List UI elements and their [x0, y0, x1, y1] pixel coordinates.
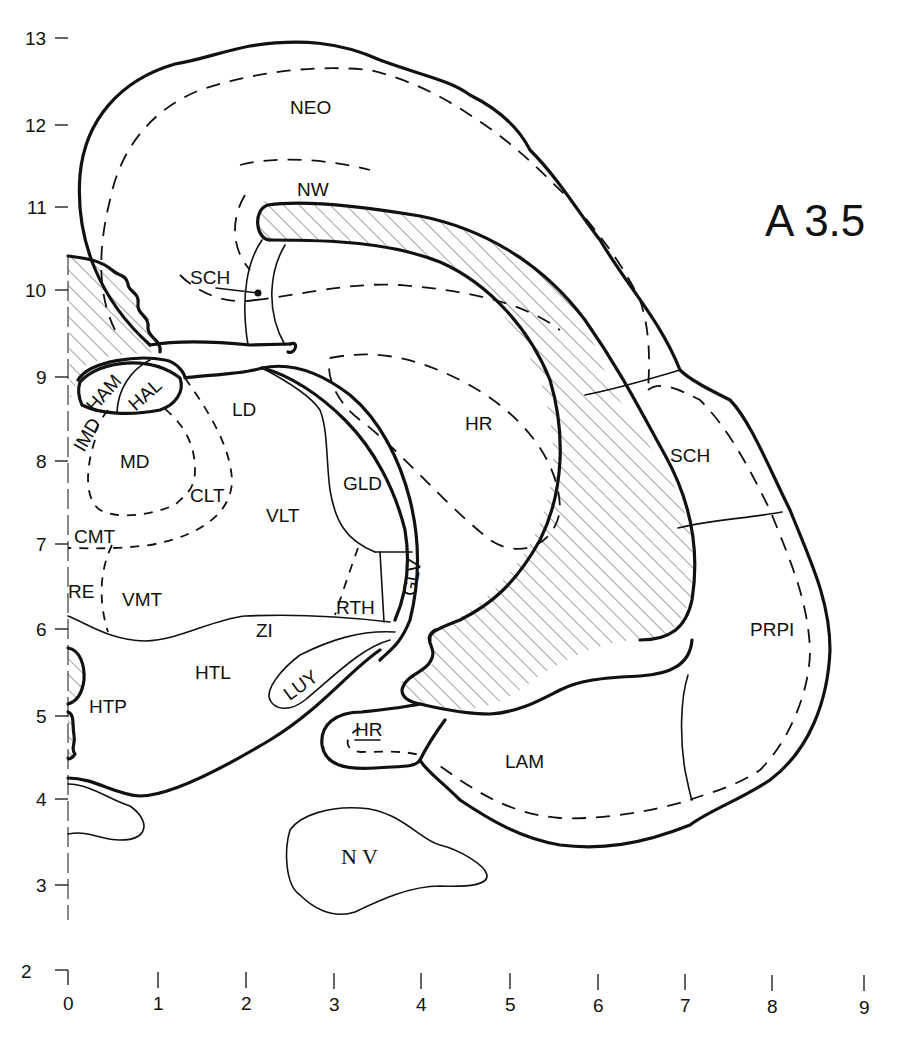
- y-axis: [55, 38, 68, 985]
- y-tick-12: 12: [25, 115, 46, 136]
- y-axis-labels: 13 12 11 10 9 8 7 6 5 4 3 2: [21, 28, 47, 982]
- region-labels: NEO NW SCH HAM HAL IMD MD LD HR CLT GLD …: [68, 97, 794, 869]
- y-tick-8: 8: [36, 451, 47, 472]
- x-tick-6: 6: [593, 995, 604, 1016]
- label-nw: NW: [297, 179, 329, 200]
- y-tick-6: 6: [36, 619, 47, 640]
- label-zi: ZI: [256, 620, 273, 641]
- label-md: MD: [120, 451, 150, 472]
- label-glv: GLV: [398, 557, 425, 597]
- label-hr-lower: HR: [355, 719, 382, 740]
- y-tick-9: 9: [36, 367, 47, 388]
- x-axis-labels: 0 1 2 3 4 5 6 7 8 9: [63, 993, 870, 1018]
- label-nv: N V: [341, 844, 378, 869]
- x-tick-9: 9: [859, 997, 870, 1018]
- x-tick-0: 0: [63, 993, 74, 1014]
- label-sch-right: SCH: [670, 445, 710, 466]
- label-vmt: VMT: [122, 589, 163, 610]
- nv-outline: [287, 808, 487, 915]
- brain-atlas-section: 13 12 11 10 9 8 7 6 5 4 3 2 0 1 2 3 4 5 …: [0, 0, 917, 1050]
- label-vlt: VLT: [266, 505, 300, 526]
- y-tick-10: 10: [25, 280, 46, 301]
- label-ld: LD: [232, 399, 256, 420]
- y-tick-2: 2: [21, 961, 32, 982]
- label-gld: GLD: [343, 473, 382, 494]
- x-tick-4: 4: [416, 994, 427, 1015]
- label-htp: HTP: [89, 696, 127, 717]
- label-clt: CLT: [190, 485, 225, 506]
- y-tick-11: 11: [27, 197, 47, 218]
- y-tick-7: 7: [36, 534, 47, 555]
- y-tick-4: 4: [36, 789, 47, 810]
- label-sch-upper: SCH: [190, 267, 230, 288]
- section-title: A 3.5: [765, 196, 865, 245]
- x-tick-3: 3: [329, 994, 340, 1015]
- y-tick-5: 5: [36, 706, 47, 727]
- cortex-outline: [79, 42, 680, 370]
- x-tick-8: 8: [767, 996, 778, 1017]
- label-re: RE: [68, 581, 94, 602]
- x-tick-1: 1: [153, 993, 164, 1014]
- label-htl: HTL: [195, 662, 231, 683]
- label-hr-main: HR: [465, 413, 492, 434]
- y-tick-13: 13: [25, 28, 46, 49]
- label-imd: IMD: [69, 414, 105, 455]
- label-luy: LUY: [279, 666, 322, 705]
- label-prpi: PRPI: [750, 619, 794, 640]
- label-ham: HAM: [82, 370, 126, 415]
- sch-marker-dot: [255, 290, 262, 297]
- x-tick-2: 2: [241, 993, 252, 1014]
- x-axis: [158, 972, 864, 991]
- label-rth: RTH: [336, 597, 375, 618]
- label-cmt: CMT: [74, 526, 116, 547]
- label-neo: NEO: [290, 97, 331, 118]
- x-tick-5: 5: [505, 994, 516, 1015]
- y-tick-3: 3: [36, 875, 47, 896]
- label-lam: LAM: [505, 751, 544, 772]
- x-tick-7: 7: [680, 995, 691, 1016]
